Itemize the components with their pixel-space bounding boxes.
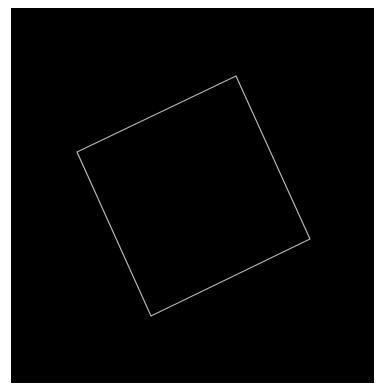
drawing-surface: [0, 0, 386, 390]
rotated-square-outline: [77, 76, 310, 316]
